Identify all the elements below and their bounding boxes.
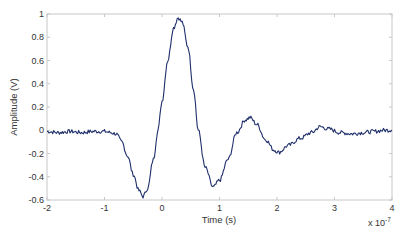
y-tick-label: 0.4 [31,79,44,89]
y-tick-label: 0.6 [31,56,44,66]
y-axis-label: Amplitude (V) [8,78,19,136]
y-tick-label: 1 [39,9,44,19]
x-tick-label: 2 [274,203,279,213]
y-tick-label: -0.2 [28,149,44,159]
x-multiplier-base: x 10 [368,218,385,228]
x-multiplier-exponent: -7 [385,216,391,223]
y-tick-label: -0.6 [28,195,44,205]
x-axis-label: Time (s) [202,214,236,225]
y-tick-label: 0 [39,125,44,135]
x-tick-label: -2 [43,203,51,213]
y-tick-label: -0.4 [28,172,44,182]
x-tick-label: 4 [389,203,394,213]
x-tick-label: -1 [100,203,108,213]
y-tick-label: 0.2 [31,102,44,112]
x-tick-label: 0 [159,203,164,213]
plot-area [47,14,392,200]
x-multiplier: x 10-7 [368,216,391,228]
x-tick-label: 3 [332,203,337,213]
y-tick-label: 0.8 [31,32,44,42]
x-tick-label: 1 [217,203,222,213]
amplitude-time-chart: -0.6-0.4-0.200.20.40.60.81 -2-101234 Tim… [0,0,409,238]
